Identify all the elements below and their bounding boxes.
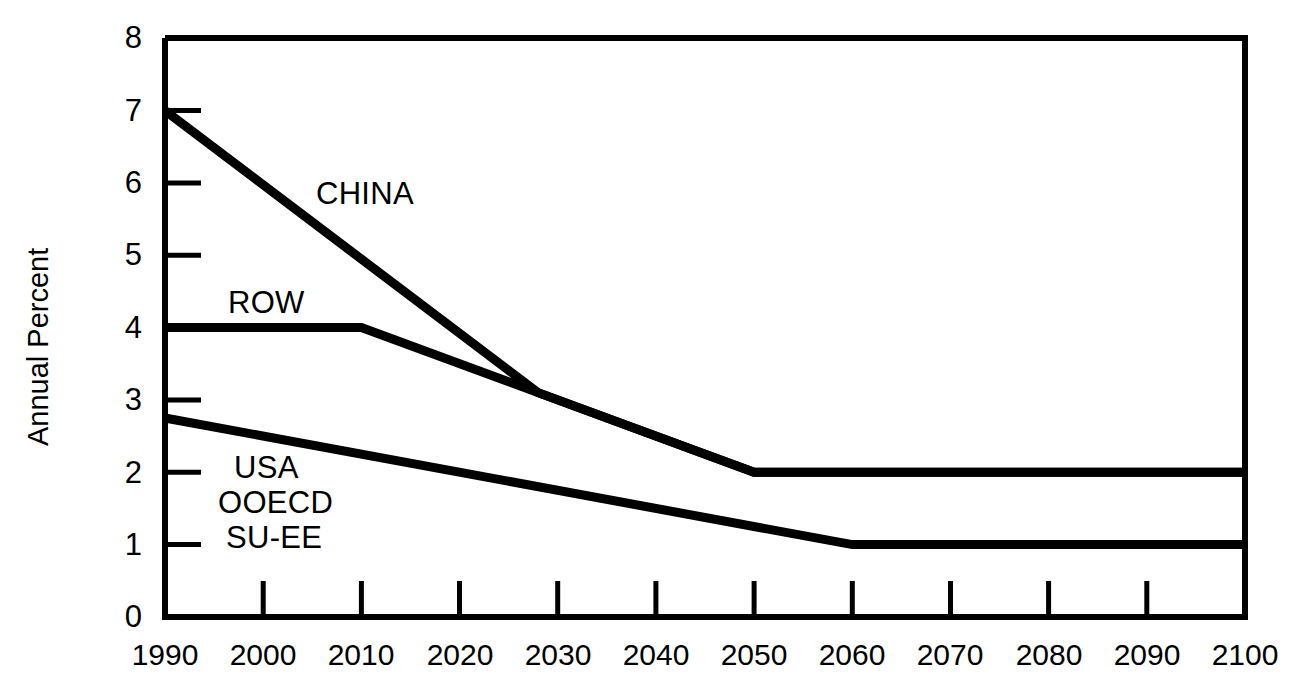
y-tick-label-1: 1 bbox=[96, 529, 142, 560]
series-label-usa: USA bbox=[234, 451, 299, 486]
x-tick-label-2050: 2050 bbox=[699, 640, 809, 670]
x-tick-label-2090: 2090 bbox=[1092, 640, 1202, 670]
y-tick-label-7: 7 bbox=[96, 95, 142, 126]
series-line-usa-ooecd-suee bbox=[165, 418, 1245, 545]
series-label-row: ROW bbox=[228, 286, 305, 321]
series-label-suee: SU-EE bbox=[226, 521, 322, 556]
x-tick-label-2070: 2070 bbox=[895, 640, 1005, 670]
x-tick-label-2100: 2100 bbox=[1190, 640, 1300, 670]
y-tick-label-5: 5 bbox=[96, 239, 142, 270]
x-tick-label-2010: 2010 bbox=[306, 640, 416, 670]
x-tick-label-2020: 2020 bbox=[405, 640, 515, 670]
series-label-china: CHINA bbox=[316, 177, 414, 212]
chart-plot-area bbox=[0, 0, 1309, 699]
y-tick-label-0: 0 bbox=[96, 601, 142, 632]
x-axis-ticks bbox=[263, 581, 1147, 617]
x-tick-label-1990: 1990 bbox=[110, 640, 220, 670]
chart-figure: Annual Percent 8 7 6 5 4 3 2 1 0 1990 20… bbox=[0, 0, 1309, 699]
x-tick-label-2060: 2060 bbox=[797, 640, 907, 670]
x-tick-label-2040: 2040 bbox=[601, 640, 711, 670]
y-tick-label-4: 4 bbox=[96, 312, 142, 343]
series-label-ooecd: OOECD bbox=[218, 486, 333, 521]
y-tick-label-2: 2 bbox=[96, 457, 142, 488]
x-tick-label-2030: 2030 bbox=[503, 640, 613, 670]
y-axis-title: Annual Percent bbox=[24, 248, 53, 446]
y-tick-label-3: 3 bbox=[96, 384, 142, 415]
x-tick-label-2000: 2000 bbox=[208, 640, 318, 670]
y-tick-label-6: 6 bbox=[96, 167, 142, 198]
y-tick-label-8: 8 bbox=[96, 22, 142, 53]
x-tick-label-2080: 2080 bbox=[994, 640, 1104, 670]
series-line-china bbox=[165, 111, 1245, 473]
